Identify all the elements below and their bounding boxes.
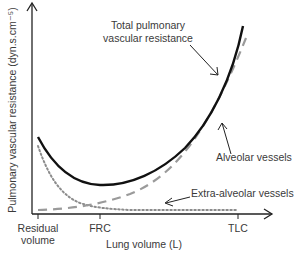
curve-total xyxy=(38,26,243,185)
annotation-total-line2: vascular resistance xyxy=(103,32,193,44)
tick-label-residual-1: Residual xyxy=(18,222,59,234)
chart: Residual volume FRC TLC Lung volume (L) … xyxy=(0,0,300,258)
annotation-alveolar: Alveolar vessels xyxy=(216,151,292,163)
y-axis-title: Pulmonary vascular resistance (dyn.s.cm⁻… xyxy=(6,7,18,212)
x-axis-title: Lung volume (L) xyxy=(106,238,182,250)
tick-label-residual-2: volume xyxy=(21,234,55,246)
annotation-total-arrow xyxy=(190,45,218,75)
curve-alveolar xyxy=(38,38,246,210)
annotation-total-line1: Total pulmonary xyxy=(111,19,186,31)
annotation-extra-alveolar: Extra-alveolar vessels xyxy=(191,187,294,199)
tick-label-frc: FRC xyxy=(89,222,111,234)
tick-label-tlc: TLC xyxy=(228,222,248,234)
